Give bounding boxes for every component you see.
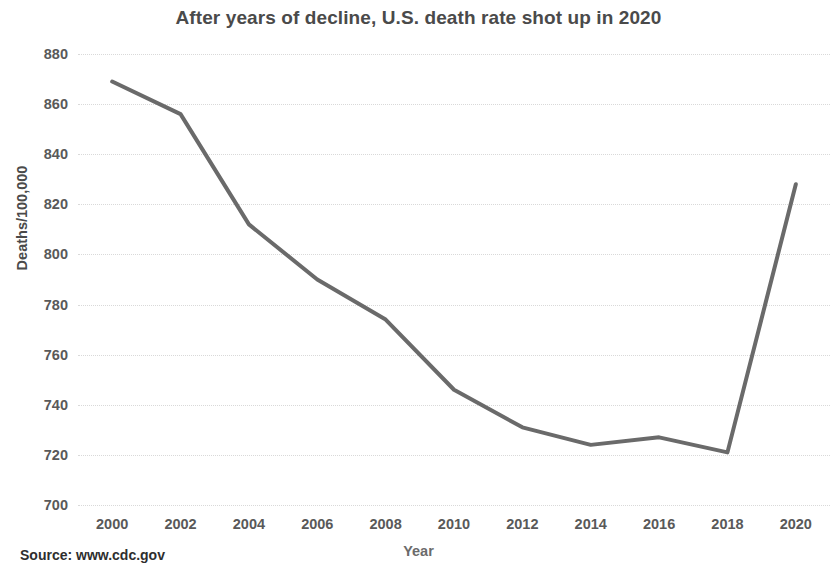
y-tick-label: 840	[8, 146, 68, 162]
y-tick-label: 740	[8, 397, 68, 413]
y-tick-label: 780	[8, 297, 68, 313]
y-tick-label: 820	[8, 196, 68, 212]
data-line	[112, 82, 796, 453]
chart-title: After years of decline, U.S. death rate …	[0, 7, 837, 29]
y-tick-label: 760	[8, 347, 68, 363]
y-tick-label: 860	[8, 96, 68, 112]
y-tick-label: 700	[8, 497, 68, 513]
y-tick-label: 880	[8, 46, 68, 62]
x-tick-label: 2020	[756, 516, 836, 532]
y-axis-tick-labels: 880860840820800780760740720700	[0, 54, 68, 505]
source-note: Source: www.cdc.gov	[20, 547, 165, 563]
line-chart: After years of decline, U.S. death rate …	[0, 0, 837, 567]
data-series-layer	[78, 54, 830, 505]
y-tick-label: 800	[8, 246, 68, 262]
plot-area	[78, 54, 830, 505]
y-tick-label: 720	[8, 447, 68, 463]
gridline	[78, 505, 830, 507]
x-axis-tick-labels: 2000200220042006200820102012201420162018…	[0, 516, 837, 538]
